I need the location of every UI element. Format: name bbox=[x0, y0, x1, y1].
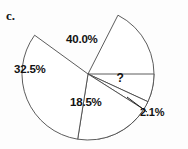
pie-slice-label-4: 32.5% bbox=[14, 64, 46, 76]
pie-chart-figure: c. 40.0% ? 2.1% 18.5% 32.5% bbox=[0, 0, 188, 149]
pie-slice-label-unknown: ? bbox=[117, 72, 124, 84]
pie-slice-label-2: 2.1% bbox=[140, 107, 164, 118]
pie-slice-label-0: 40.0% bbox=[66, 34, 98, 46]
pie-slice-4 bbox=[22, 35, 88, 139]
pie-slice-label-3: 18.5% bbox=[70, 97, 102, 109]
